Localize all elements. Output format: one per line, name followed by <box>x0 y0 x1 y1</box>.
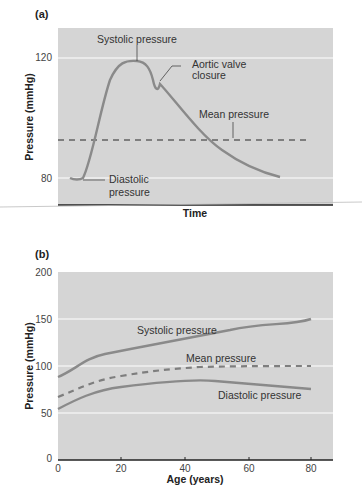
panel-b-xlabel: Age (years) <box>166 473 223 485</box>
panel-b-label: (b) <box>35 248 49 260</box>
ann-systolic-a: Systolic pressure <box>97 33 177 45</box>
ytick-50: 50 <box>41 408 53 419</box>
panel-a-xlabel: Time <box>183 207 207 219</box>
xtick-60: 60 <box>243 463 255 474</box>
ann-mean-a: Mean pressure <box>199 108 269 120</box>
ytick-0: 0 <box>46 453 52 464</box>
ytick-80: 80 <box>41 173 53 184</box>
xtick-20: 20 <box>115 463 127 474</box>
xtick-80: 80 <box>305 463 317 474</box>
ytick-150: 150 <box>35 314 52 325</box>
ytick-120: 120 <box>35 52 52 63</box>
panel-a-ylabel: Pressure (mmHg) <box>23 73 35 161</box>
panel-b-ylabel: Pressure (mmHg) <box>23 322 35 410</box>
ann-diastolic-b: Diastolic pressure <box>218 389 302 401</box>
ytick-200: 200 <box>35 267 52 278</box>
ann-aortic-2: closure <box>192 69 226 81</box>
figure: (a) 120 80 Pressure (mmHg) Time Systolic… <box>0 0 362 501</box>
ann-systolic-b: Systolic pressure <box>137 324 217 336</box>
ann-mean-b: Mean pressure <box>186 352 256 364</box>
ann-diastolic-1: Diastolic <box>109 173 149 185</box>
xtick-0: 0 <box>55 463 61 474</box>
ann-diastolic-2: pressure <box>109 186 150 198</box>
panel-a-label: (a) <box>35 8 49 20</box>
ytick-100: 100 <box>35 361 52 372</box>
